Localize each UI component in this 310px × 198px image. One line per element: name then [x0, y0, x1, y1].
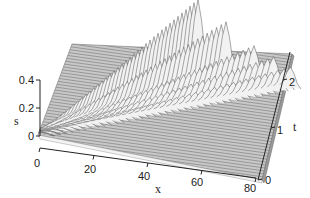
surface-plot: 0.4 0.2 0 s 0 20 40 60 80 x 0 1 2 t: [0, 0, 310, 198]
x-tick-0: 0: [34, 157, 40, 169]
x-tick-80: 80: [244, 182, 256, 194]
t-tick-0: 0: [265, 174, 271, 186]
t-axis-label: t: [293, 120, 297, 134]
x-tick-60: 60: [191, 176, 203, 188]
x-tick-20: 20: [84, 163, 96, 175]
s-axis: 0.4 0.2 0 s: [14, 74, 40, 142]
s-axis-label: s: [14, 114, 19, 128]
s-tick-0.4: 0.4: [19, 74, 34, 86]
x-tick-40: 40: [138, 170, 150, 182]
s-tick-0.2: 0.2: [19, 102, 34, 114]
x-axis-label: x: [155, 182, 161, 196]
s-tick-0: 0: [28, 130, 34, 142]
t-tick-2: 2: [289, 76, 295, 88]
t-tick-1: 1: [277, 124, 283, 136]
